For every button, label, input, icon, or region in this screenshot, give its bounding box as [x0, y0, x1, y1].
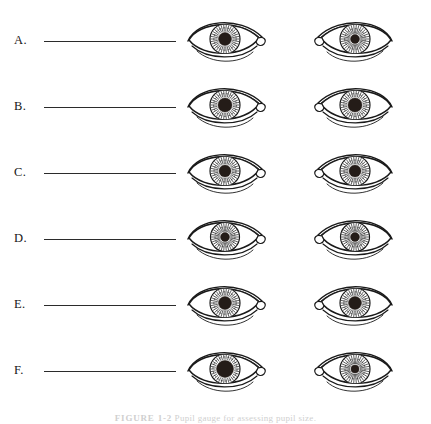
pupil-row: E. — [0, 272, 431, 336]
left-eye-c — [183, 145, 267, 199]
caruncle — [315, 103, 324, 111]
answer-line-f[interactable] — [44, 371, 176, 372]
left-eye-e — [183, 277, 267, 331]
pupil — [349, 297, 362, 310]
iris-group — [210, 288, 240, 318]
figure-number: FIGURE 1-2 — [115, 413, 172, 423]
row-label-a: A. — [14, 33, 27, 48]
iris-group — [211, 223, 240, 252]
eye-illustration — [183, 277, 267, 331]
iris-group — [340, 24, 370, 54]
caruncle — [315, 235, 324, 243]
caruncle — [315, 169, 324, 177]
iris-group — [340, 90, 370, 120]
pupil-row: D. — [0, 206, 431, 270]
caruncle — [256, 367, 265, 375]
caruncle — [256, 37, 265, 45]
caruncle — [315, 37, 324, 45]
left-eye-f — [183, 343, 267, 397]
answer-line-b[interactable] — [44, 107, 176, 108]
eye-illustration — [313, 211, 397, 265]
answer-line-d[interactable] — [44, 239, 176, 240]
iris-group — [341, 223, 370, 252]
right-eye-b — [313, 79, 397, 133]
eye-illustration — [313, 145, 397, 199]
right-eye-a — [313, 13, 397, 67]
iris-group — [210, 156, 240, 186]
caruncle — [256, 103, 265, 111]
caruncle — [315, 301, 324, 309]
pupil — [221, 233, 230, 242]
figure-sheet: A. — [0, 0, 431, 424]
right-eye-e — [313, 277, 397, 331]
pupil — [351, 365, 359, 373]
row-label-d: D. — [14, 231, 27, 246]
iris-group — [340, 156, 370, 186]
caruncle — [256, 169, 265, 177]
pupil — [219, 165, 231, 177]
pupil — [348, 98, 362, 112]
eye-illustration — [183, 343, 267, 397]
pupil — [218, 98, 232, 112]
answer-line-a[interactable] — [44, 41, 176, 42]
row-label-b: B. — [14, 99, 26, 114]
caruncle — [256, 301, 265, 309]
pupil — [351, 233, 360, 242]
pupil — [219, 297, 232, 310]
left-eye-b — [183, 79, 267, 133]
answer-line-e[interactable] — [44, 305, 176, 306]
pupil-row: A. — [0, 8, 431, 72]
eye-illustration — [183, 79, 267, 133]
figure-caption: FIGURE 1-2 Pupil gauge for assessing pup… — [0, 413, 431, 424]
iris-group — [210, 354, 240, 384]
iris-group — [210, 24, 240, 54]
right-eye-f — [313, 343, 397, 397]
eye-illustration — [313, 343, 397, 397]
pupil-row: C. — [0, 140, 431, 204]
right-eye-d — [313, 211, 397, 265]
row-label-f: F. — [14, 363, 24, 378]
row-label-e: E. — [14, 297, 26, 312]
pupil — [351, 35, 360, 44]
iris-group — [210, 90, 240, 120]
eye-illustration — [313, 277, 397, 331]
iris-group — [340, 354, 370, 384]
eye-illustration — [183, 211, 267, 265]
pupil-row: F. — [0, 338, 431, 402]
pupil — [217, 361, 234, 378]
pupil — [349, 165, 361, 177]
pupil-row: B. — [0, 74, 431, 138]
row-label-c: C. — [14, 165, 26, 180]
caruncle — [315, 367, 324, 375]
left-eye-a — [183, 13, 267, 67]
eye-illustration — [183, 145, 267, 199]
left-eye-d — [183, 211, 267, 265]
eye-illustration — [313, 13, 397, 67]
figure-caption-text: Pupil gauge for assessing pupil size. — [175, 413, 317, 423]
right-eye-c — [313, 145, 397, 199]
caruncle — [256, 235, 265, 243]
pupil — [219, 33, 232, 46]
eye-illustration — [183, 13, 267, 67]
eye-illustration — [313, 79, 397, 133]
answer-line-c[interactable] — [44, 173, 176, 174]
iris-group — [340, 288, 370, 318]
